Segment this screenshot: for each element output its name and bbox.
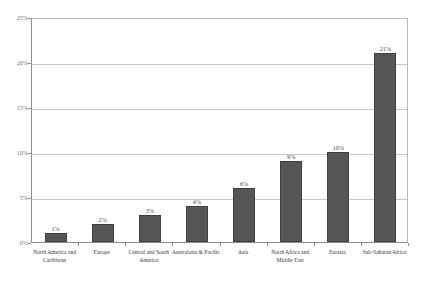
- x-axis-tick-mark: [267, 243, 268, 246]
- bar[interactable]: [92, 224, 114, 242]
- bar-value-label: 3%: [146, 207, 154, 214]
- y-axis-tick-mark: [28, 108, 31, 109]
- bar[interactable]: [233, 188, 255, 242]
- y-axis-tick-mark: [28, 18, 31, 19]
- bar-chart: 1%2%3%4%6%9%10%21% 0%5%10%15%20%25% Nort…: [0, 0, 425, 288]
- bar-slot: 21%: [362, 19, 409, 242]
- x-axis-tick-mark: [172, 243, 173, 246]
- bar[interactable]: [327, 152, 349, 242]
- bar-value-label: 21%: [380, 45, 391, 52]
- x-axis-tick-mark: [125, 243, 126, 246]
- bar-value-label: 4%: [193, 198, 201, 205]
- y-axis-tick-mark: [28, 198, 31, 199]
- x-axis-tick-mark: [220, 243, 221, 246]
- y-axis-tick-label: 10%: [17, 149, 28, 156]
- bar[interactable]: [139, 215, 161, 242]
- bar-slot: 4%: [173, 19, 220, 242]
- bar-slot: 1%: [32, 19, 79, 242]
- y-axis-tick-label: 20%: [17, 59, 28, 66]
- bar[interactable]: [374, 53, 396, 242]
- plot-area: 1%2%3%4%6%9%10%21%: [31, 18, 408, 243]
- bar-slot: 9%: [268, 19, 315, 242]
- bar-value-label: 6%: [240, 180, 248, 187]
- x-axis-tick-mark: [314, 243, 315, 246]
- bar-value-label: 1%: [51, 225, 59, 232]
- y-axis-tick-label: 0%: [20, 239, 28, 246]
- bar-slot: 2%: [79, 19, 126, 242]
- y-axis-tick-mark: [28, 243, 31, 244]
- bar[interactable]: [280, 161, 302, 242]
- bar-slot: 3%: [126, 19, 173, 242]
- y-axis-tick-mark: [28, 63, 31, 64]
- bar-value-label: 10%: [333, 144, 344, 151]
- x-axis-tick-mark: [78, 243, 79, 246]
- x-axis-tick-mark: [361, 243, 362, 246]
- x-axis-category-label: Sub-Saharan Africa: [357, 248, 412, 256]
- y-axis-tick-label: 25%: [17, 14, 28, 21]
- bar[interactable]: [45, 233, 67, 242]
- bar-value-label: 9%: [287, 153, 295, 160]
- y-axis-tick-label: 5%: [20, 194, 28, 201]
- x-axis-tick-mark: [408, 243, 409, 246]
- y-axis-tick-mark: [28, 153, 31, 154]
- y-axis-tick-label: 15%: [17, 104, 28, 111]
- bar[interactable]: [186, 206, 208, 242]
- bar-value-label: 2%: [99, 216, 107, 223]
- bar-slot: 6%: [221, 19, 268, 242]
- bar-slot: 10%: [315, 19, 362, 242]
